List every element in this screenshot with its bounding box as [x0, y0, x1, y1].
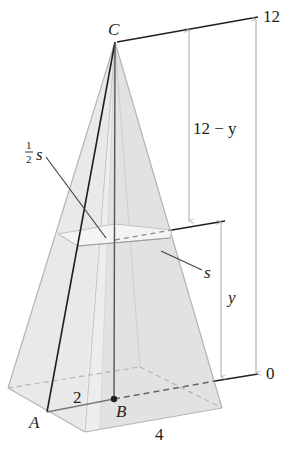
- pyramid-diagram: C 12 12 − y 1 2 s s y 0 2 A B 4: [0, 0, 297, 449]
- altitude-cb: [114, 42, 115, 399]
- label-s: s: [204, 263, 211, 282]
- level-line-12: [117, 17, 258, 42]
- label-top-12: 12: [263, 7, 280, 26]
- pyramid-figure: C 12 12 − y 1 2 s s y 0 2 A B 4: [0, 0, 297, 449]
- label-base-side-4: 4: [155, 425, 164, 444]
- label-half-num: 1: [26, 139, 32, 151]
- label-center-b: B: [116, 402, 127, 421]
- label-y: y: [226, 288, 236, 307]
- label-half-den: 2: [26, 153, 32, 165]
- dimension-lines: [189, 19, 256, 377]
- label-half-base-2: 2: [73, 388, 82, 407]
- label-bottom-0: 0: [266, 364, 275, 383]
- label-corner-a: A: [28, 413, 40, 432]
- label-half-s: s: [36, 145, 43, 164]
- label-upper-dim: 12 − y: [193, 119, 237, 138]
- label-apex-c: C: [108, 20, 120, 39]
- level-line-y: [172, 221, 225, 230]
